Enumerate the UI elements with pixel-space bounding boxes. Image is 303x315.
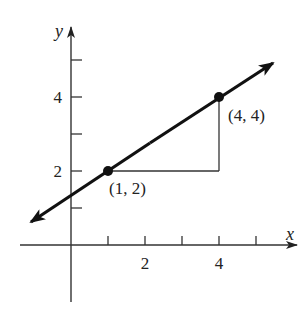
y-axis-label: y: [53, 21, 63, 41]
x-tick-label-2: 2: [141, 254, 150, 273]
y-axis-ticks: [71, 60, 82, 208]
point-label-1-2: (1, 2): [109, 179, 146, 198]
x-axis: 2 4 x: [20, 224, 297, 273]
y-tick-label-4: 4: [54, 88, 63, 107]
point-1-2: [103, 166, 113, 176]
x-axis-ticks: [108, 236, 256, 245]
y-axis: 2 4 y: [53, 21, 82, 302]
point-4-4: [214, 92, 224, 102]
line-upper-half: [150, 63, 273, 143]
x-tick-label-4: 4: [215, 254, 224, 273]
x-axis-label: x: [285, 224, 294, 244]
graph-figure: 2 4 x 2 4 y: [0, 0, 303, 315]
y-tick-label-2: 2: [54, 162, 63, 181]
point-label-4-4: (4, 4): [228, 106, 265, 125]
data-points: (1, 2) (4, 4): [103, 92, 265, 198]
line-series: [31, 63, 273, 222]
